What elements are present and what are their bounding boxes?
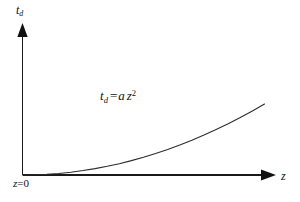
equation-coefficient: a [118, 88, 125, 103]
equation-exponent: 2 [132, 88, 136, 98]
x-axis-label-var: z [281, 169, 286, 183]
y-axis-label: td [16, 4, 23, 18]
x-axis-arrow-icon [261, 170, 276, 181]
equation-equals: = [110, 88, 117, 103]
equation-lhs-sub: d [104, 95, 108, 105]
plot-svg [0, 0, 300, 202]
origin-label: z=0 [13, 178, 29, 189]
y-axis-arrow-icon [17, 23, 27, 37]
parabola-curve [23, 104, 265, 175]
figure-canvas: td z z=0 td=az2 [0, 0, 300, 202]
origin-label-value: =0 [17, 177, 29, 189]
y-axis-label-sub: d [19, 9, 23, 18]
equation-annotation: td=az2 [100, 89, 136, 104]
x-axis-label: z [281, 170, 286, 182]
